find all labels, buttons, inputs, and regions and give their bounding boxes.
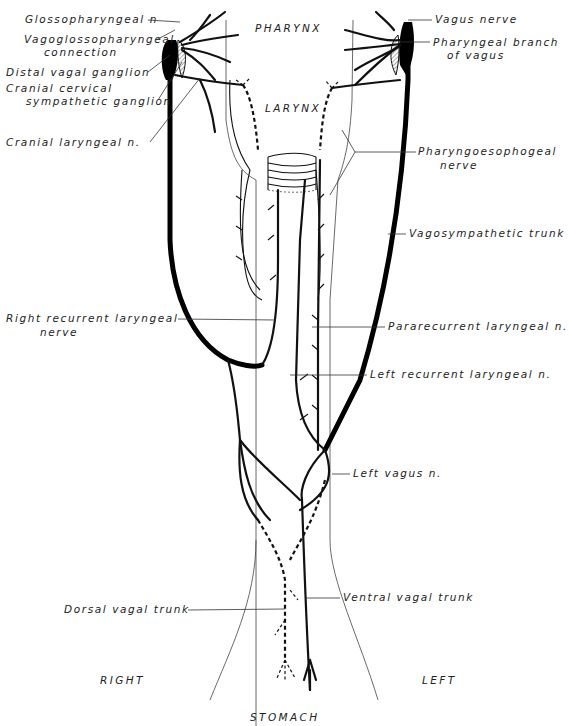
- label-pharyngoesophogeal-nerve: nerve: [440, 159, 478, 171]
- region-pharynx: PHARYNX: [255, 22, 322, 34]
- label-pharyngoesophogeal: Pharyngoesophogeal: [418, 145, 557, 157]
- region-stomach: STOMACH: [250, 711, 320, 723]
- labels-left: Glossopharyngeal n Vagoglossopharyngeal …: [6, 13, 285, 615]
- left-vagus-nerve: [296, 12, 414, 450]
- branch-ticks: [236, 194, 324, 420]
- label-sympathetic-ganglion: sympathetic ganglion: [26, 95, 172, 107]
- vagus-nerve-diagram: PHARYNX LARYNX RIGHT LEFT STOMACH Glosso…: [0, 0, 569, 726]
- vagal-trunks: [239, 440, 329, 690]
- label-dorsal-vagal-trunk: Dorsal vagal trunk: [64, 603, 190, 615]
- tracheal-rings: [268, 153, 316, 192]
- label-right-recurrent-nerve: nerve: [40, 326, 78, 338]
- label-left-recurrent-laryngeal: Left recurrent laryngeal n.: [370, 368, 551, 380]
- labels-right: Vagus nerve Pharyngeal branch of vagus P…: [290, 13, 568, 603]
- label-pararecurrent-laryngeal: Pararecurrent laryngeal n.: [388, 320, 568, 332]
- esophagus-outline: [210, 20, 378, 726]
- label-glossopharyngeal: Glossopharyngeal n: [25, 13, 158, 25]
- label-distal-vagal-ganglion: Distal vagal ganglion: [6, 66, 150, 78]
- label-cranial-laryngeal: Cranial laryngeal n.: [6, 136, 141, 148]
- label-vagoglossopharyngeal-connection: connection: [44, 46, 118, 58]
- label-pharyngeal-branch: Pharyngeal branch: [433, 36, 559, 48]
- label-left-vagus: Left vagus n.: [353, 467, 442, 479]
- region-left: LEFT: [422, 674, 457, 686]
- label-of-vagus: of vagus: [447, 49, 505, 61]
- right-vagus-nerve: [162, 12, 278, 520]
- label-vagosympathetic-trunk: Vagosympathetic trunk: [409, 227, 565, 239]
- region-larynx: LARYNX: [265, 102, 321, 114]
- label-vagus-nerve: Vagus nerve: [435, 13, 518, 25]
- label-ventral-vagal-trunk: Ventral vagal trunk: [343, 591, 474, 603]
- label-cranial-cervical: Cranial cervical: [6, 82, 113, 94]
- label-right-recurrent-laryngeal: Right recurrent laryngeal: [6, 312, 178, 324]
- region-right: RIGHT: [100, 674, 145, 686]
- label-vagoglossopharyngeal: Vagoglossopharyngeal: [24, 33, 175, 45]
